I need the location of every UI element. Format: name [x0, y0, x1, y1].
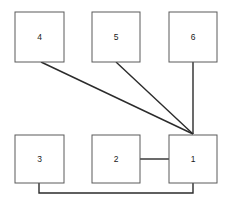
edge-node3-to-node1	[39, 183, 193, 193]
node-4[interactable]: 4	[15, 12, 64, 62]
node-2[interactable]: 2	[92, 135, 140, 183]
node-3-label: 3	[37, 154, 42, 164]
edge-node5-to-node1	[116, 62, 193, 134]
edge-node4-to-node1	[41, 62, 193, 134]
diagram-svg: 4 5 6 3 2 1	[0, 0, 231, 205]
node-6[interactable]: 6	[169, 12, 217, 62]
node-3[interactable]: 3	[15, 135, 64, 183]
diagram-canvas: 4 5 6 3 2 1	[0, 0, 231, 205]
node-1-label: 1	[191, 154, 196, 164]
node-4-label: 4	[37, 32, 42, 42]
node-5-label: 5	[114, 32, 119, 42]
node-5[interactable]: 5	[92, 12, 140, 62]
node-2-label: 2	[114, 154, 119, 164]
node-1[interactable]: 1	[169, 135, 217, 183]
node-6-label: 6	[191, 32, 196, 42]
